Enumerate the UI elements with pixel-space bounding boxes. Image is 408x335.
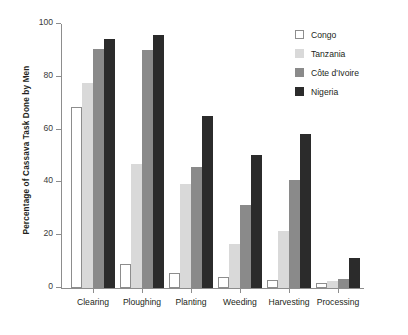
y-axis-tick: 0 [56,287,61,288]
bar [82,83,93,288]
y-axis-tick-label: 40 [43,175,53,185]
legend-swatch-icon [295,68,304,77]
bar [267,280,278,288]
x-axis-tick-label: Planting [175,297,206,307]
y-axis-tick-label: 20 [43,228,53,238]
legend-item[interactable]: Tanzania [295,46,359,61]
legend-item-label: Tanzania [311,49,345,59]
x-axis-tick [289,288,290,293]
y-axis-line [61,24,62,288]
bar [153,35,164,288]
y-axis-tick: 100 [56,23,61,24]
y-axis-tick: 60 [56,129,61,130]
bar [120,264,131,288]
bar [300,134,311,288]
bar [229,244,240,288]
bar [169,273,180,288]
x-axis-tick-label: Harvesting [268,297,309,307]
bar [278,231,289,288]
y-axis-tick-label: 60 [43,123,53,133]
x-axis-tick-label: Weeding [223,297,257,307]
y-axis-tick: 20 [56,234,61,235]
bar-group [169,24,213,288]
bar-group [218,24,262,288]
legend-item-label: Congo [311,30,336,40]
x-axis-tick [240,288,241,293]
bar [289,180,300,288]
y-axis-tick: 40 [56,181,61,182]
legend-item[interactable]: Congo [295,27,359,42]
legend-item[interactable]: Nigeria [295,84,359,99]
legend-item-label: Côte d'Ivoire [311,68,359,78]
bar [349,258,360,288]
y-axis-title: Percentage of Cassava Task Done by Men [18,0,36,300]
x-axis-tick-label: Ploughing [123,297,161,307]
bar [142,50,153,288]
bar-group [120,24,164,288]
legend-item[interactable]: Côte d'Ivoire [295,65,359,80]
bar [316,283,327,288]
legend-swatch-icon [295,87,304,96]
x-axis-tick [338,288,339,293]
bar [327,281,338,288]
bar [191,167,202,288]
bar-group [71,24,115,288]
legend-swatch-icon [295,30,304,39]
x-axis-tick-label: Processing [317,297,360,307]
legend: CongoTanzaniaCôte d'IvoireNigeria [295,27,359,103]
bar-chart: Percentage of Cassava Task Done by Men 0… [0,0,408,335]
bar [202,116,213,288]
y-axis-tick-label: 0 [48,281,53,291]
x-axis-tick [191,288,192,293]
bar [338,279,349,288]
bar [93,49,104,288]
x-axis-tick [93,288,94,293]
y-axis-tick-label: 80 [43,70,53,80]
bar [240,205,251,288]
x-axis-tick [142,288,143,293]
x-axis-tick-label: Clearing [77,297,109,307]
y-axis-tick-label: 100 [39,17,53,27]
x-axis-line [61,288,364,289]
bar [251,155,262,288]
bar [218,277,229,288]
bar [104,39,115,288]
y-axis-tick: 80 [56,76,61,77]
bar [180,184,191,288]
legend-item-label: Nigeria [311,87,338,97]
legend-swatch-icon [295,49,304,58]
bar [71,107,82,288]
bar [131,164,142,288]
